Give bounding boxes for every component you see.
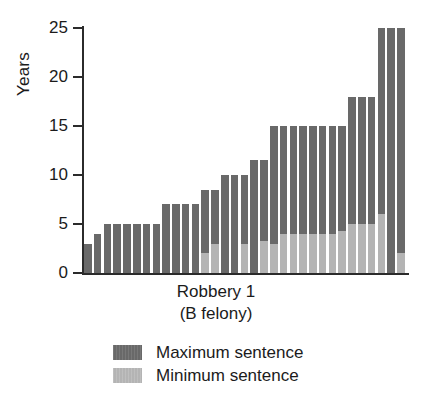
bar-segment-maximum [172,204,180,273]
bar [368,97,376,273]
bar-segment-maximum [104,224,112,273]
y-axis-tick-label: 20 [32,68,68,85]
bar [123,224,131,273]
y-axis-tick [73,125,82,127]
bar [309,126,317,273]
y-axis-tick-label: 25 [32,19,68,36]
bar [387,28,395,273]
bar-segment-maximum [397,28,405,273]
bar [348,97,356,273]
bar-segment-minimum [270,244,278,273]
bar [378,28,386,273]
bar [182,204,190,273]
bar-segment-maximum [153,224,161,273]
bar-segment-maximum [221,175,229,273]
bar-segment-maximum [143,224,151,273]
bar [94,234,102,273]
bar [338,126,346,273]
legend-swatch-min [113,368,142,383]
bar-segment-maximum [162,204,170,273]
legend-item: Minimum sentence [113,364,373,387]
bar [299,126,307,273]
bar-segment-maximum [182,204,190,273]
x-axis-line [82,273,409,275]
bar [201,190,209,273]
bar-segment-minimum [319,234,327,273]
bar [84,244,92,273]
bar-segment-minimum [241,244,249,273]
bar-segment-maximum [113,224,121,273]
bar-segment-minimum [397,253,405,273]
bar [221,175,229,273]
y-axis-tick [73,174,82,176]
y-axis-tick-label: 15 [32,117,68,134]
bar [231,175,239,273]
bar-segment-minimum [290,234,298,273]
bar [143,224,151,273]
bar [211,190,219,273]
bar [162,204,170,273]
y-axis-tick [73,223,82,225]
bar [172,204,180,273]
chart-legend: Maximum sentenceMinimum sentence [113,341,373,387]
y-axis-ticks: 0510152025 [0,0,84,394]
bar-segment-maximum [231,175,239,273]
bar-segment-minimum [280,234,288,273]
bar [397,28,405,273]
x-axis-caption-line2: (B felony) [0,303,432,325]
bar-segment-minimum [211,244,219,273]
bar-segment-minimum [299,234,307,273]
bar [329,126,337,273]
legend-label: Minimum sentence [156,367,299,384]
bar [270,126,278,273]
plot-area [84,28,407,273]
bar [153,224,161,273]
bar-segment-maximum [123,224,131,273]
bar-segment-minimum [329,234,337,273]
y-axis-tick-label: 5 [32,215,68,232]
y-axis-tick-label: 0 [32,264,68,281]
bar-segment-minimum [201,253,209,273]
bar-segment-minimum [338,231,346,273]
bar [133,224,141,273]
bar-chart-figure: Years 0510152025 Robbery 1 (B felony) Ma… [0,0,432,394]
bar [104,224,112,273]
bar [192,204,200,273]
bar-segment-maximum [94,234,102,273]
x-axis-caption: Robbery 1 (B felony) [0,281,432,325]
bar-segment-maximum [387,28,395,273]
bar-segment-minimum [260,241,268,273]
bar-segment-maximum [192,204,200,273]
bar [250,160,258,273]
bar [113,224,121,273]
legend-item: Maximum sentence [113,341,373,364]
y-axis-tick [73,76,82,78]
y-axis-tick [73,27,82,29]
bar-segment-maximum [250,160,258,273]
bar-segment-minimum [348,224,356,273]
bar-segment-minimum [358,224,366,273]
legend-swatch-max [113,345,142,360]
bar [260,160,268,273]
bar [290,126,298,273]
bar-segment-minimum [368,224,376,273]
bar [241,175,249,273]
bar-segment-maximum [84,244,92,273]
bar-segment-minimum [378,214,386,273]
bar [280,126,288,273]
bar-segment-minimum [309,234,317,273]
legend-label: Maximum sentence [156,344,303,361]
y-axis-tick [73,272,82,274]
bar-segment-maximum [133,224,141,273]
bar [319,126,327,273]
x-axis-caption-line1: Robbery 1 [0,281,432,303]
y-axis-tick-label: 10 [32,166,68,183]
bar [358,97,366,273]
